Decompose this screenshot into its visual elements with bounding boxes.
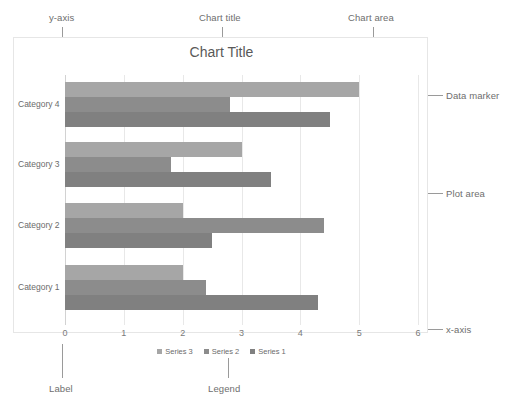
annotation-legend: Legend — [208, 383, 240, 394]
x-axis-tick-label: 2 — [180, 328, 185, 338]
data-marker — [65, 203, 183, 218]
bar-group — [65, 142, 418, 187]
x-axis-tick-label: 1 — [121, 328, 126, 338]
plot-area[interactable] — [65, 75, 418, 325]
legend-swatch-icon — [204, 349, 209, 354]
x-axis-tick-label: 6 — [415, 328, 420, 338]
annotation-y-axis: y-axis — [49, 12, 74, 23]
y-axis-label: Category 4 — [18, 99, 60, 109]
bar-group — [65, 203, 418, 248]
annotation-chart-title: Chart title — [199, 12, 241, 23]
x-axis-tick-label: 3 — [239, 328, 244, 338]
data-marker — [65, 172, 271, 187]
chart-title[interactable]: Chart Title — [14, 44, 429, 60]
data-marker — [65, 265, 183, 280]
bar-group — [65, 265, 418, 310]
legend[interactable]: Series 3Series 2Series 1 — [14, 347, 429, 356]
data-marker — [65, 218, 324, 233]
chart-screenshot: y-axis Chart title Chart area Data marke… — [0, 0, 513, 405]
annotation-label: Label — [49, 383, 73, 394]
data-marker — [65, 82, 359, 97]
data-marker — [65, 233, 212, 248]
legend-swatch-icon — [250, 349, 255, 354]
data-marker — [65, 112, 330, 127]
annotation-x-axis: x-axis — [446, 324, 471, 335]
legend-item[interactable]: Series 2 — [204, 347, 240, 356]
y-axis-label: Category 2 — [18, 220, 60, 230]
data-marker — [65, 97, 230, 112]
y-axis-label: Category 3 — [18, 159, 60, 169]
y-axis-label: Category 1 — [18, 282, 60, 292]
leader-line-legend — [228, 358, 229, 378]
x-axis-tick-label: 5 — [357, 328, 362, 338]
legend-item[interactable]: Series 1 — [250, 347, 286, 356]
data-marker — [65, 157, 171, 172]
data-marker — [65, 280, 206, 295]
x-axis-tick-label: 4 — [298, 328, 303, 338]
annotation-plot-area: Plot area — [446, 188, 485, 199]
legend-item[interactable]: Series 3 — [157, 347, 193, 356]
annotation-chart-area: Chart area — [348, 12, 394, 23]
gridline-6 — [418, 75, 419, 325]
data-marker — [65, 142, 242, 157]
legend-swatch-icon — [157, 349, 162, 354]
bar-group — [65, 82, 418, 127]
annotation-data-marker: Data marker — [446, 90, 499, 101]
legend-label: Series 3 — [165, 347, 193, 356]
legend-label: Series 1 — [258, 347, 286, 356]
x-axis-tick-label: 0 — [62, 328, 67, 338]
data-marker — [65, 295, 318, 310]
legend-label: Series 2 — [212, 347, 240, 356]
chart-area[interactable]: Chart Title Category 4Category 3Category… — [13, 37, 428, 333]
